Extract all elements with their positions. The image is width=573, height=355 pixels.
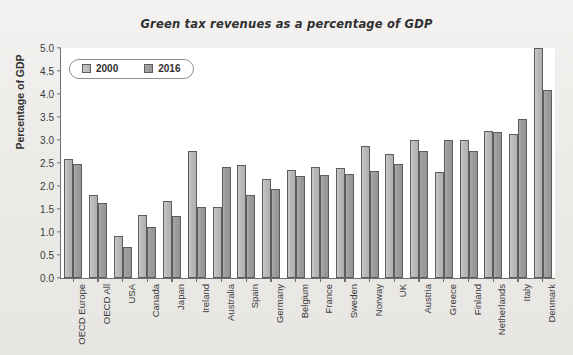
x-axis-category-label: Sweden xyxy=(349,284,359,318)
bar-2016[interactable] xyxy=(147,227,156,278)
bar-2000[interactable] xyxy=(89,195,98,278)
bar-2016[interactable] xyxy=(394,164,403,278)
bar-group: Ireland xyxy=(185,48,210,278)
bar-2000[interactable] xyxy=(163,201,172,278)
bar-2000[interactable] xyxy=(534,48,543,278)
x-axis-category-label: Australia xyxy=(226,284,236,321)
x-axis-tick-mark xyxy=(122,278,123,282)
chart-figure: Green tax revenues as a percentage of GD… xyxy=(0,0,573,355)
y-axis-label: Percentage of GDP xyxy=(14,37,26,167)
bar-2000[interactable] xyxy=(237,165,246,278)
x-axis-category-label: USA xyxy=(127,284,137,304)
x-axis-category-label: OECD All xyxy=(102,284,112,324)
bar-2016[interactable] xyxy=(271,189,280,278)
legend-label-2000: 2000 xyxy=(96,63,118,74)
bar-2016[interactable] xyxy=(543,90,552,278)
bar-2000[interactable] xyxy=(509,134,518,278)
bar-2016[interactable] xyxy=(518,119,527,278)
bar-2000[interactable] xyxy=(336,168,345,278)
bar-2000[interactable] xyxy=(213,207,222,278)
plot-area: 5.04.54.03.53.02.52.01.51.00.50.0 OECD E… xyxy=(60,48,555,279)
legend-entry-2016[interactable]: 2016 xyxy=(144,63,180,74)
bar-2000[interactable] xyxy=(361,146,370,278)
x-axis-tick-mark xyxy=(295,278,296,282)
x-axis-tick-mark xyxy=(97,278,98,282)
bar-2000[interactable] xyxy=(138,215,147,278)
x-axis-tick-mark xyxy=(542,278,543,282)
bar-2016[interactable] xyxy=(444,140,453,278)
bar-group: Italy xyxy=(506,48,531,278)
bar-2016[interactable] xyxy=(296,176,305,278)
bar-2000[interactable] xyxy=(484,131,493,278)
bar-group: Spain xyxy=(234,48,259,278)
bar-2016[interactable] xyxy=(345,174,354,278)
bar-group: France xyxy=(308,48,333,278)
bar-group: UK xyxy=(382,48,407,278)
x-axis-tick-mark xyxy=(196,278,197,282)
bar-group: Japan xyxy=(160,48,185,278)
bar-group: Sweden xyxy=(333,48,358,278)
x-axis-category-label: UK xyxy=(398,284,408,297)
chart-title: Green tax revenues as a percentage of GD… xyxy=(0,17,573,31)
x-axis-tick-mark xyxy=(418,278,419,282)
bar-2016[interactable] xyxy=(370,171,379,278)
bar-2016[interactable] xyxy=(123,247,132,278)
bar-2016[interactable] xyxy=(73,164,82,278)
x-axis-tick-mark xyxy=(320,278,321,282)
bar-2016[interactable] xyxy=(246,195,255,278)
legend-entry-2000[interactable]: 2000 xyxy=(82,63,118,74)
x-axis-category-label: OECD Europe xyxy=(77,284,87,345)
bar-group: OECD Europe xyxy=(61,48,86,278)
bar-2016[interactable] xyxy=(98,203,107,278)
bar-2016[interactable] xyxy=(320,175,329,278)
bar-2016[interactable] xyxy=(222,167,231,278)
bar-2016[interactable] xyxy=(469,151,478,278)
bar-2000[interactable] xyxy=(435,172,444,278)
x-axis-tick-mark xyxy=(221,278,222,282)
x-axis-tick-mark xyxy=(443,278,444,282)
x-axis-category-label: Japan xyxy=(176,284,186,310)
chart-legend: 2000 2016 xyxy=(69,59,194,79)
bar-2000[interactable] xyxy=(188,151,197,278)
x-axis-category-label: Greece xyxy=(448,284,458,315)
bar-group: OECD All xyxy=(86,48,111,278)
x-axis-tick-mark xyxy=(344,278,345,282)
x-axis-tick-mark xyxy=(147,278,148,282)
bar-2000[interactable] xyxy=(385,154,394,278)
bar-group: Greece xyxy=(432,48,457,278)
bar-2000[interactable] xyxy=(262,179,271,278)
x-axis-category-label: Ireland xyxy=(201,284,211,313)
x-axis-tick-mark xyxy=(246,278,247,282)
bar-group: Austria xyxy=(407,48,432,278)
x-axis-category-label: Norway xyxy=(374,284,384,316)
x-axis-tick-mark xyxy=(468,278,469,282)
legend-swatch-icon-2000 xyxy=(82,64,91,73)
x-axis-category-label: Finland xyxy=(473,284,483,315)
x-axis-category-label: Netherlands xyxy=(497,284,507,335)
x-axis-tick-mark xyxy=(270,278,271,282)
bar-2016[interactable] xyxy=(172,216,181,278)
bar-2016[interactable] xyxy=(197,207,206,278)
bar-2000[interactable] xyxy=(64,159,73,278)
bar-group: Denmark xyxy=(530,48,555,278)
bar-2016[interactable] xyxy=(419,151,428,278)
bar-group: Canada xyxy=(135,48,160,278)
bar-group: Netherlands xyxy=(481,48,506,278)
bar-2000[interactable] xyxy=(410,140,419,278)
x-axis-tick-mark xyxy=(171,278,172,282)
bar-group: USA xyxy=(110,48,135,278)
bar-2000[interactable] xyxy=(287,170,296,278)
x-axis-tick-mark xyxy=(394,278,395,282)
legend-swatch-icon-2016 xyxy=(144,64,153,73)
bar-2000[interactable] xyxy=(460,140,469,278)
x-axis-category-label: Italy xyxy=(522,284,532,301)
x-axis-tick-mark xyxy=(369,278,370,282)
bar-2016[interactable] xyxy=(493,132,502,278)
x-axis-category-label: Germany xyxy=(275,284,285,323)
bar-2000[interactable] xyxy=(311,167,320,278)
x-axis-category-label: Austria xyxy=(423,284,433,314)
bar-2000[interactable] xyxy=(114,236,123,278)
x-axis-category-label: Denmark xyxy=(547,284,557,323)
plot-inner: 5.04.54.03.53.02.52.01.51.00.50.0 OECD E… xyxy=(61,48,555,278)
bar-group: Norway xyxy=(357,48,382,278)
